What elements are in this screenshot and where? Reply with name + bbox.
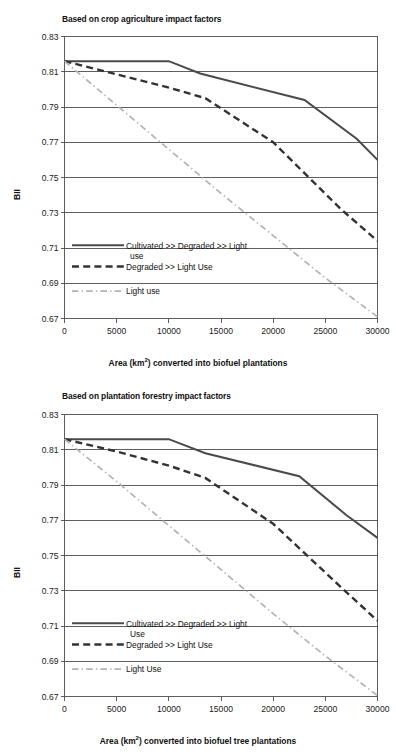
x-axis-title-crop-agriculture: Area (km2) converted into biofuel planta… (0, 357, 396, 368)
chart-canvas-crop-agriculture: 0.670.690.710.730.750.770.790.810.830500… (0, 0, 396, 345)
x-tick-label-1: 5000 (107, 326, 126, 336)
y-tick-label-6: 0.79 (42, 102, 59, 112)
series-line-2 (65, 439, 378, 695)
x-axis-title-suffix: ) converted into biofuel tree plantation… (139, 736, 296, 746)
x-tick-label-2: 10000 (157, 326, 181, 336)
x-axis-title-plantation-forestry: Area (km2) converted into biofuel tree p… (0, 735, 396, 746)
legend-label-0: Cultivated >> Degraded >> Light (126, 241, 248, 251)
x-tick-label-0: 0 (62, 326, 67, 336)
y-tick-label-1: 0.69 (42, 656, 59, 666)
legend-label-2: Light use (126, 286, 160, 296)
y-tick-label-2: 0.71 (42, 243, 59, 253)
y-tick-label-7: 0.81 (42, 67, 59, 77)
legend-label-1: Degraded >> Light Use (126, 262, 213, 272)
legend-label-0: Cultivated >> Degraded >> Light (126, 619, 248, 629)
x-tick-label-1: 5000 (107, 704, 126, 714)
y-tick-label-2: 0.71 (42, 621, 59, 631)
x-tick-label-4: 20000 (261, 326, 285, 336)
y-tick-label-3: 0.73 (42, 586, 59, 596)
x-tick-label-4: 20000 (261, 704, 285, 714)
y-tick-label-6: 0.79 (42, 480, 59, 490)
x-tick-label-0: 0 (62, 704, 67, 714)
x-axis-title-suffix: ) converted into biofuel plantations (148, 358, 288, 368)
y-tick-label-5: 0.77 (42, 515, 59, 525)
y-tick-label-4: 0.75 (42, 173, 59, 183)
chart-panel-crop-agriculture: Based on crop agriculture impact factors… (0, 0, 396, 378)
y-tick-label-7: 0.81 (42, 445, 59, 455)
y-tick-label-5: 0.77 (42, 137, 59, 147)
series-line-0 (65, 439, 378, 538)
chart-title-crop-agriculture: Based on crop agriculture impact factors (62, 14, 221, 24)
x-tick-label-2: 10000 (157, 704, 181, 714)
series-line-0 (65, 61, 378, 160)
y-tick-label-8: 0.83 (42, 410, 59, 420)
y-axis-title-plantation-forestry: BII (12, 567, 22, 578)
y-tick-label-8: 0.83 (42, 32, 59, 42)
y-tick-label-3: 0.73 (42, 208, 59, 218)
x-tick-label-6: 30000 (366, 704, 390, 714)
y-tick-label-4: 0.75 (42, 551, 59, 561)
series-line-2 (65, 61, 378, 317)
y-tick-label-0: 0.67 (42, 692, 59, 702)
x-axis-title-prefix: Area (km (109, 358, 145, 368)
y-tick-label-1: 0.69 (42, 278, 59, 288)
legend-label-1: Degraded >> Light Use (126, 640, 213, 650)
series-line-1 (65, 439, 378, 621)
x-tick-label-5: 25000 (313, 704, 337, 714)
y-axis-title-crop-agriculture: BII (12, 189, 22, 200)
figure-page: Based on crop agriculture impact factors… (0, 0, 396, 756)
chart-title-plantation-forestry: Based on plantation forestry impact fact… (62, 391, 231, 401)
chart-panel-plantation-forestry: Based on plantation forestry impact fact… (0, 378, 396, 756)
x-tick-label-3: 15000 (209, 326, 233, 336)
legend-label-0-line2: Use (130, 629, 145, 639)
legend-label-2: Light Use (126, 664, 162, 674)
y-tick-label-0: 0.67 (42, 314, 59, 324)
legend-label-0-line2: use (130, 251, 144, 261)
x-tick-label-5: 25000 (313, 326, 337, 336)
x-axis-title-prefix: Area (km (100, 736, 136, 746)
series-line-1 (65, 61, 378, 241)
x-tick-label-6: 30000 (366, 326, 390, 336)
chart-canvas-plantation-forestry: 0.670.690.710.730.750.770.790.810.830500… (0, 378, 396, 723)
x-tick-label-3: 15000 (209, 704, 233, 714)
